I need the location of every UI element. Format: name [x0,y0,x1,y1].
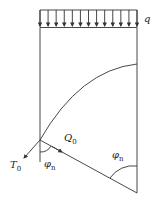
meridian-curve [40,64,137,140]
tension-label: T0 [10,160,21,173]
distributed-load [40,10,137,28]
angle-arc-top [40,146,51,152]
shear-arrow-icon [52,147,62,153]
shear-label: Q0 [64,133,77,146]
angle-label-bottom: φn [112,150,124,163]
shell-element-diagram [0,0,158,214]
angle-label-top: φn [44,159,56,172]
tension-arrow-icon [24,140,40,158]
load-label: q [144,14,150,24]
angle-arc-bottom [110,166,137,178]
